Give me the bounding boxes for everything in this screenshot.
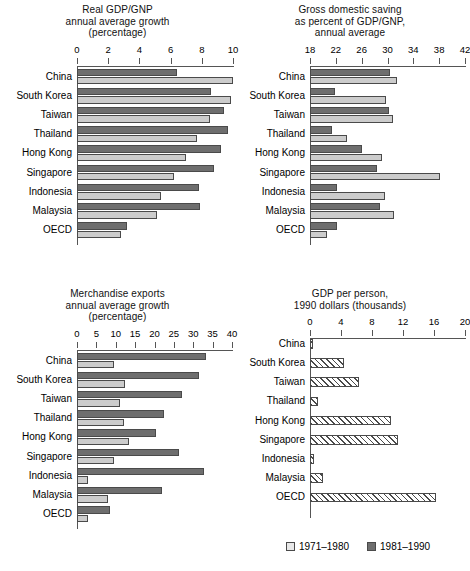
chart-title-line: annual average growth (0, 16, 235, 28)
bar-indonesia-1971-1980 (310, 192, 385, 200)
x-axis-tick-mark (202, 58, 203, 64)
chart-title-line: as percent of GDP/GNP, (233, 16, 467, 28)
bar-malaysia-1971-1980 (77, 211, 157, 219)
x-axis-tick-label: 10 (110, 328, 121, 339)
bar-malaysia-1981-1990 (77, 487, 162, 495)
legend-item-1981-1990: 1981–1990 (367, 541, 430, 552)
plot-area-gdp-per-person: ChinaSouth KoreaTaiwanThailandHong KongS… (310, 339, 465, 518)
legend-swatch-1981-1990 (367, 542, 376, 551)
x-axis-tick-mark (139, 58, 140, 64)
x-axis-tick-label: 26 (356, 44, 367, 55)
x-axis-tick-mark (193, 342, 194, 348)
bar-china--------------- (310, 339, 313, 349)
x-axis-tick-mark (372, 330, 373, 336)
bar-china-1971-1980 (77, 361, 114, 369)
bar-china-1971-1980 (310, 77, 397, 85)
x-axis-tick-mark (108, 58, 109, 64)
bar-singapore--------------- (310, 435, 398, 445)
category-label-malaysia: Malaysia (266, 206, 310, 216)
x-axis-tick-mark (155, 342, 156, 348)
bar-malaysia--------------- (310, 473, 323, 483)
legend-item-1971-1980: 1971–1980 (286, 541, 349, 552)
x-axis-tick-mark (135, 342, 136, 348)
bar-thailand--------------- (310, 397, 318, 407)
x-axis-tick-mark (77, 58, 78, 64)
x-axis-tick-label: 4 (338, 316, 343, 327)
x-axis-tick-label: 4 (137, 44, 142, 55)
x-axis-tick-label: 2 (106, 44, 111, 55)
chart-panel-merchandise-exports: Merchandise exportsannual average growth… (0, 288, 235, 538)
category-label-indonesia: Indonesia (29, 471, 77, 481)
chart-title-real-gdp-growth: Real GDP/GNPannual average growth(percen… (0, 4, 235, 39)
legend-swatch-1971-1980 (286, 542, 295, 551)
bar-singapore-1971-1980 (77, 173, 174, 181)
chart-title-merchandise-exports-growth: Merchandise exportsannual average growth… (0, 288, 235, 323)
chart-title-line: annual average growth (0, 300, 235, 312)
bar-china-1981-1990 (77, 69, 177, 77)
bar-taiwan-1971-1980 (310, 115, 393, 123)
category-label-south-korea: South Korea (16, 91, 77, 101)
x-axis-tick-label: 0 (74, 328, 79, 339)
category-label-singapore: Singapore (259, 168, 310, 178)
bar-indonesia-1981-1990 (77, 184, 199, 192)
x-axis-tick-labels: 0510152025303540 (0, 328, 235, 339)
category-label-thailand: Thailand (34, 129, 77, 139)
plot-area-real-gdp-growth: ChinaSouth KoreaTaiwanThailandHong KongS… (77, 67, 233, 246)
bar-malaysia-1981-1990 (77, 203, 200, 211)
bar-thailand-1971-1980 (77, 135, 197, 143)
category-label-oecd: OECD (43, 509, 77, 519)
x-axis-tick-label: 5 (94, 328, 99, 339)
x-axis-ticks (233, 58, 467, 66)
category-label-china: China (279, 72, 310, 82)
bar-south-korea--------------- (310, 358, 344, 368)
chart-title-line: (percentage) (0, 27, 235, 39)
bar-thailand-1971-1980 (310, 135, 347, 143)
category-label-hong-kong: Hong Kong (255, 148, 310, 158)
x-axis-tick-label: 12 (398, 316, 409, 327)
x-axis-tick-label: 15 (130, 328, 141, 339)
category-label-oecd: OECD (276, 225, 310, 235)
x-axis-tick-label: 16 (429, 316, 440, 327)
bar-indonesia-1981-1990 (77, 468, 204, 476)
bar-hong-kong-1981-1990 (310, 145, 362, 153)
bar-taiwan--------------- (310, 377, 359, 387)
plot-area-merchandise-exports-growth: ChinaSouth KoreaTaiwanThailandHong KongS… (77, 351, 232, 530)
category-label-indonesia: Indonesia (262, 454, 310, 464)
plot-area-gross-domestic-saving: ChinaSouth KoreaTaiwanThailandHong KongS… (310, 67, 465, 246)
bar-taiwan-1981-1990 (77, 107, 224, 115)
x-axis-tick-mark (213, 342, 214, 348)
chart-panel-real-gdp-growth: Real GDP/GNPannual average growth(percen… (0, 4, 235, 284)
bar-hong-kong-1981-1990 (77, 429, 156, 437)
category-label-singapore: Singapore (26, 452, 77, 462)
bar-singapore-1981-1990 (77, 449, 179, 457)
chart-title-line: annual average (233, 27, 467, 39)
bar-malaysia-1971-1980 (310, 211, 394, 219)
bar-singapore-1971-1980 (310, 173, 440, 181)
bar-malaysia-1971-1980 (77, 495, 108, 503)
x-axis-ticks (0, 58, 235, 66)
x-axis-tick-label: 18 (305, 44, 316, 55)
chart-title-line: Real GDP/GNP (0, 4, 235, 16)
x-axis-tick-mark (116, 342, 117, 348)
category-label-oecd: OECD (276, 492, 310, 502)
bar-singapore-1971-1980 (77, 457, 114, 465)
legend-label-1971-1980: 1971–1980 (299, 541, 349, 552)
chart-panel-gdp-per-person: GDP per person,1990 dollars (thousands)0… (233, 288, 467, 538)
x-axis-tick-mark (171, 58, 172, 64)
x-axis-tick-label: 34 (408, 44, 419, 55)
x-axis-ticks (0, 342, 235, 350)
x-axis-tick-label: 8 (199, 44, 204, 55)
bar-singapore-1981-1990 (310, 165, 377, 173)
category-label-thailand: Thailand (34, 413, 77, 423)
bar-south-korea-1971-1980 (310, 96, 386, 104)
x-axis-tick-mark (388, 58, 389, 64)
x-axis-tick-label: 0 (74, 44, 79, 55)
bar-taiwan-1981-1990 (310, 107, 389, 115)
x-axis-tick-label: 42 (460, 44, 470, 55)
category-label-china: China (46, 72, 77, 82)
x-axis-tick-label: 35 (207, 328, 218, 339)
bar-oecd-1981-1990 (310, 222, 337, 230)
bar-thailand-1981-1990 (77, 126, 228, 134)
bar-south-korea-1981-1990 (77, 372, 199, 380)
category-label-singapore: Singapore (26, 168, 77, 178)
